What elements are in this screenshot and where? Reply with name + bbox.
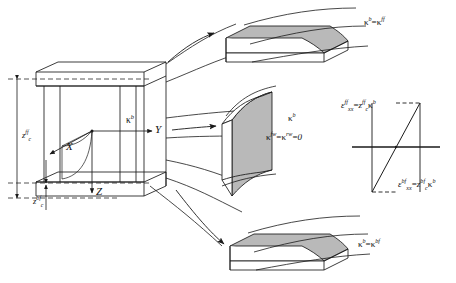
top-plate-curvature-equation: κb=κff bbox=[364, 16, 385, 27]
bottom-flange-plate-shape bbox=[230, 234, 348, 270]
callout-arrows bbox=[168, 33, 224, 244]
dimension-label-bottom-flange: zbfc bbox=[33, 196, 43, 208]
main-box-girder bbox=[36, 62, 166, 196]
web-panel-zero-curvature-equation: κfw=κrw=0 bbox=[266, 131, 302, 142]
bottom-plate-curvature-equation: κb=κbf bbox=[358, 238, 380, 249]
strain-equation-bottom: εbfxx=zbfcκb bbox=[398, 178, 435, 191]
web-panel-curvature-label: κb bbox=[288, 112, 296, 123]
web-panel-shape bbox=[222, 92, 272, 196]
axis-label-y: Y bbox=[155, 124, 161, 135]
dimension-label-top-flange: zffc bbox=[22, 130, 31, 142]
strain-equation-top: εffxx=zffcκb bbox=[341, 99, 376, 112]
axis-label-z: Z bbox=[96, 186, 102, 197]
figure-canvas: X Y Z κb zffc zbfc κb=κff κb κfw=κrw=0 κ… bbox=[0, 0, 456, 283]
top-flange-plate-shape bbox=[226, 26, 348, 62]
main-box-curvature-label: κb bbox=[126, 114, 134, 126]
axis-label-x: X bbox=[66, 141, 73, 152]
